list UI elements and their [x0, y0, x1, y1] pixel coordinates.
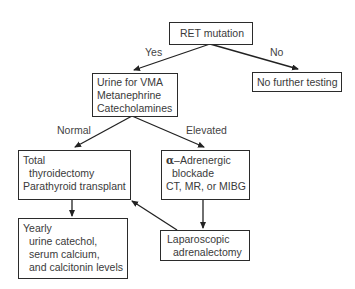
node-yearly-monitoring: Yearly urine catechol, serum calcium, an… — [18, 218, 128, 279]
node-laparoscopic-adrenalectomy: Laparoscopic adrenalectomy — [160, 230, 250, 261]
node-text-line1: α–Adrenergic — [166, 154, 249, 167]
node-text: –Adrenergic — [174, 154, 231, 166]
arrow-ret-to-no-testing — [210, 44, 298, 69]
node-text: urine catechol, — [23, 235, 127, 248]
node-urine-tests: Urine for VMA Metanephrine Catecholamine… — [92, 73, 178, 117]
node-text: RET mutation — [180, 27, 252, 40]
edge-label-normal: Normal — [57, 124, 91, 136]
arrow-lap-to-thyroid — [132, 201, 177, 230]
node-text: Urine for VMA — [97, 76, 177, 89]
node-text: CT, MR, or MIBG — [166, 180, 249, 193]
node-text: serum calcium, — [23, 248, 127, 261]
node-ret-mutation: RET mutation — [169, 22, 253, 45]
node-text: Yearly — [23, 222, 127, 235]
node-text: thyroidectomy — [23, 167, 130, 180]
edge-label-elevated: Elevated — [186, 124, 227, 136]
node-text: Metanephrine — [97, 89, 177, 102]
node-text: Laparoscopic — [167, 233, 249, 246]
node-text: blockade — [166, 167, 249, 180]
node-text: Catecholamines — [97, 102, 177, 115]
node-text: and calcitonin levels — [23, 261, 127, 274]
node-total-thyroidectomy: Total thyroidectomy Parathyroid transpla… — [18, 150, 131, 200]
node-alpha-adrenergic-blockade: α–Adrenergic blockade CT, MR, or MIBG — [161, 150, 250, 200]
node-text: Total — [23, 154, 130, 167]
node-text: adrenalectomy — [167, 246, 249, 259]
node-no-further-testing: No further testing — [252, 72, 342, 92]
node-text: Parathyroid transplant — [23, 180, 130, 193]
edge-label-yes: Yes — [145, 46, 162, 58]
alpha-symbol: α — [166, 154, 174, 166]
node-text: No further testing — [257, 76, 341, 89]
edge-label-no: No — [270, 46, 283, 58]
